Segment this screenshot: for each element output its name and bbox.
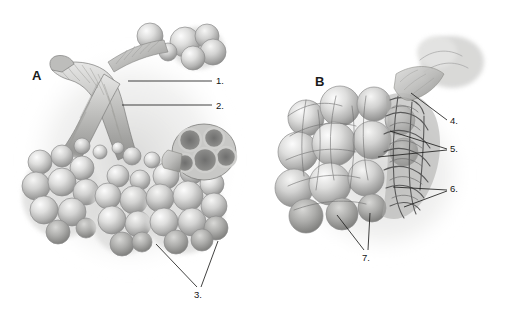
alveolar-sac-left: [22, 145, 102, 244]
panel-letter-a: A: [32, 68, 41, 83]
callout-label-1: 1.: [216, 76, 224, 86]
callout-label-4: 4.: [450, 116, 458, 126]
callout-label-2: 2.: [216, 101, 224, 111]
callout-label-7: 7.: [362, 253, 370, 263]
panel-letter-b: B: [315, 74, 324, 89]
callout-label-3: 3.: [194, 290, 202, 300]
callout-label-6: 6.: [450, 184, 458, 194]
callout-label-5: 5.: [450, 144, 458, 154]
panel-a-artwork: [18, 23, 242, 278]
illustration-artwork: [0, 0, 508, 328]
figure-canvas: A B 1. 2. 3. 4. 5. 6. 7.: [0, 0, 508, 328]
bronchiole-b: [394, 67, 444, 101]
